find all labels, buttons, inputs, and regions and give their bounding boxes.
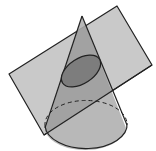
diagram-canvas: [0, 0, 156, 151]
cone-plane-section-diagram: [0, 0, 156, 151]
